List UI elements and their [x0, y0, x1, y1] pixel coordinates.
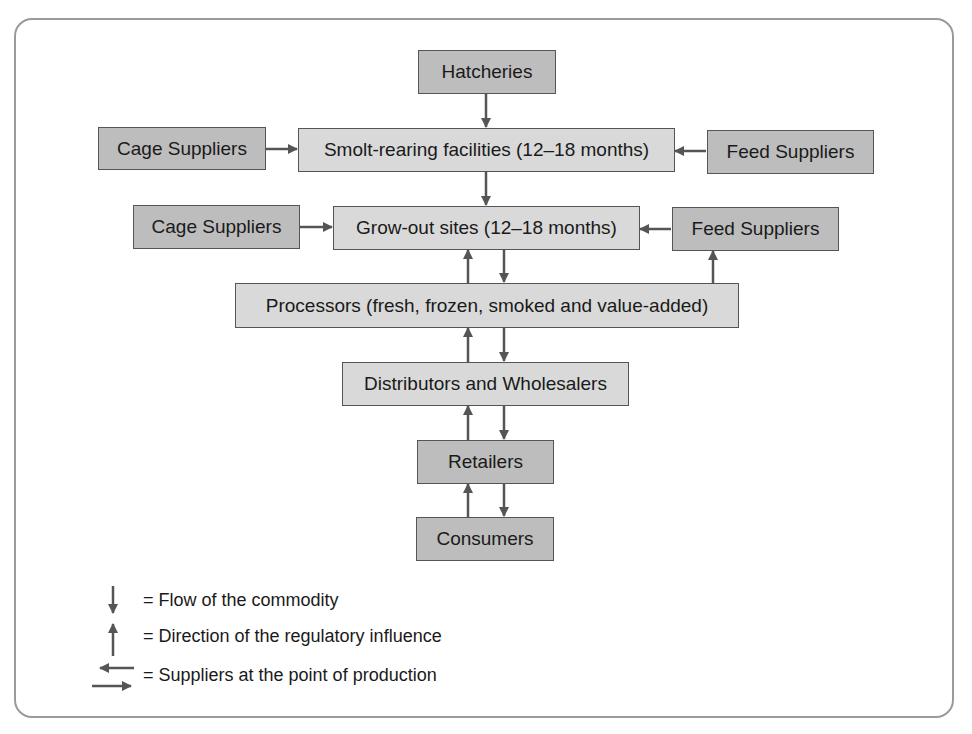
legend-item-commodity-flow: = Flow of the commodity [143, 590, 339, 611]
node-distributors-wholesalers: Distributors and Wholesalers [342, 362, 629, 406]
node-cage-suppliers-1: Cage Suppliers [98, 127, 266, 170]
node-label: Grow-out sites (12–18 months) [356, 217, 617, 239]
node-label: Smolt-rearing facilities (12–18 months) [324, 139, 649, 161]
node-retailers: Retailers [417, 440, 554, 484]
node-label: Distributors and Wholesalers [364, 373, 607, 395]
node-label: Hatcheries [442, 61, 533, 83]
legend-item-regulatory-influence: = Direction of the regulatory influence [143, 626, 442, 647]
node-feed-suppliers-1: Feed Suppliers [707, 130, 874, 174]
node-label: Feed Suppliers [727, 141, 855, 163]
node-label: Consumers [436, 528, 533, 550]
node-feed-suppliers-2: Feed Suppliers [672, 207, 839, 251]
node-cage-suppliers-2: Cage Suppliers [133, 205, 300, 249]
node-grow-out-sites: Grow-out sites (12–18 months) [333, 206, 640, 250]
node-hatcheries: Hatcheries [418, 50, 556, 94]
node-processors: Processors (fresh, frozen, smoked and va… [235, 283, 739, 328]
node-label: Cage Suppliers [117, 138, 247, 160]
node-consumers: Consumers [416, 517, 554, 561]
legend-item-suppliers: = Suppliers at the point of production [143, 665, 437, 686]
node-label: Feed Suppliers [692, 218, 820, 240]
node-label: Cage Suppliers [152, 216, 282, 238]
node-label: Retailers [448, 451, 523, 473]
node-label: Processors (fresh, frozen, smoked and va… [266, 295, 709, 317]
node-smolt-rearing: Smolt-rearing facilities (12–18 months) [298, 128, 675, 172]
